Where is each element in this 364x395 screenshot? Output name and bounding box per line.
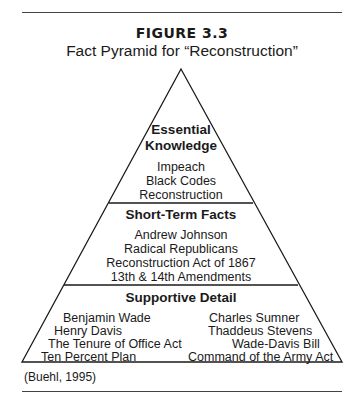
level-heading: Knowledge (131, 139, 231, 153)
list-item: Black Codes (121, 174, 241, 188)
list-item: The Tenure of Office Act (48, 337, 182, 351)
list-item: Reconstruction (121, 188, 241, 202)
figure-credit: (Buehl, 1995) (24, 370, 96, 384)
list-item: Reconstruction Act of 1867 (91, 256, 271, 270)
level-heading: Supportive Detail (101, 291, 261, 305)
list-item: Command of the Army Act (188, 350, 333, 364)
bottom-rule (22, 391, 342, 392)
level-heading: Essential (131, 123, 231, 137)
list-item: Impeach (121, 160, 241, 174)
list-item: Andrew Johnson (91, 228, 271, 242)
list-item: Thaddeus Stevens (208, 324, 312, 338)
list-item: Radical Republicans (91, 242, 271, 256)
list-item: Wade-Davis Bill (232, 337, 320, 351)
level-heading: Short-Term Facts (101, 208, 261, 222)
list-item: Benjamin Wade (63, 311, 151, 325)
list-item: Henry Davis (54, 324, 122, 338)
list-item: Ten Percent Plan (41, 350, 136, 364)
list-item: 13th & 14th Amendments (91, 270, 271, 284)
list-item: Charles Sumner (209, 311, 299, 325)
